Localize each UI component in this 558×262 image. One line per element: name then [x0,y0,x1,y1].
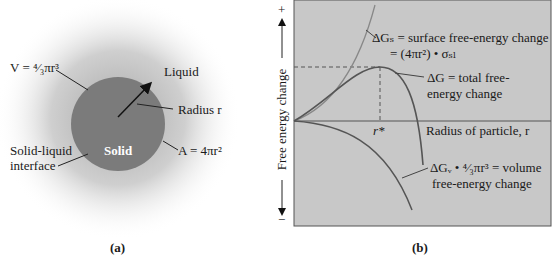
x-axis-label: Radius of particle, r [426,123,529,138]
volume-label-line2: free-energy change [432,176,532,191]
caption-a: (a) [110,240,125,255]
volume-label-line1: ΔGᵥ • ⁴⁄₃πr³ = volume [430,160,541,175]
radius-label: Radius r [178,102,222,117]
y-axis-label: Free energy change [274,65,289,175]
area-formula-label: A = 4πr² [178,143,222,158]
solid-label: Solid [104,143,132,158]
surface-label-line1: ΔGₛ = surface free-energy change [372,30,548,45]
total-label-line1: ΔG = total free- [427,70,509,85]
caption-b: (b) [412,240,428,255]
y-plus-label: + [278,2,285,17]
total-label-line2: energy change [427,86,502,101]
liquid-label: Liquid [164,64,199,79]
surface-label-line2: = (4πr²) • σₛₗ [390,46,456,61]
y-minus-label: − [278,212,285,227]
r-star-label: r* [373,123,385,138]
interface-label-line1: Solid-liquid [10,143,72,158]
interface-label-line2: interface [10,158,55,173]
volume-formula-label: V = ⁴⁄₃πr³ [10,60,59,75]
